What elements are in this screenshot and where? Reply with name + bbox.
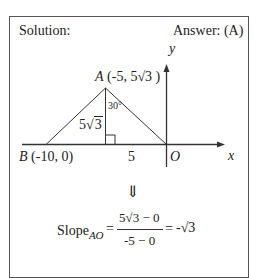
fraction-bar [117,229,163,230]
origin-label: O [170,150,180,164]
height-label: 5√3 [79,118,103,132]
fraction-numerator: 5√3 − 0 [119,211,159,224]
x-axis-label: x [228,149,234,163]
equals-sign-2: = [165,222,173,236]
x-axis-arrow-icon [217,142,225,148]
point-B-label: B (-10, 0) [19,150,73,164]
slope-lhs: SlopeAO [57,224,104,241]
y-axis-arrow-icon [164,64,170,72]
point-A-label: A (-5, 5√3 ) [95,70,160,84]
sqrt-icon: √3 [86,118,103,132]
y-axis-label: y [169,42,175,56]
base-length-label: 5 [128,150,135,164]
equals-sign-1: = [106,222,114,236]
right-angle-icon [106,135,116,145]
angle-label: 30° [108,101,122,111]
slope-result: -√3 [176,221,195,235]
implies-arrow-icon: ⇓ [126,184,139,200]
fraction-denominator: -5 − 0 [124,234,155,247]
